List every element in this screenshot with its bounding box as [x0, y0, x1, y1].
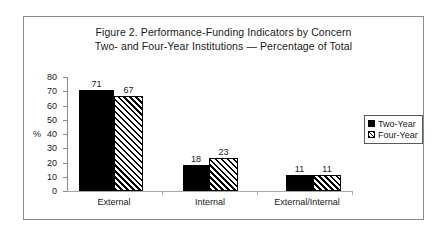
y-tick-60: 60: [63, 106, 67, 107]
x-separator-2: [257, 191, 258, 195]
chart-title-line-1: Figure 2. Performance-Funding Indicators…: [24, 25, 423, 39]
y-tick-30: 30: [63, 148, 67, 149]
y-tick-20: 20: [63, 163, 67, 164]
y-tick-80: 80: [63, 77, 67, 78]
y-tick-label-40: 40: [47, 129, 57, 139]
bar-value-internal-two-year: 18: [191, 154, 201, 164]
y-tick-label-30: 30: [47, 143, 57, 153]
legend-swatch-four-year-icon: [368, 131, 375, 138]
bar-value-external-two-year: 71: [91, 79, 101, 89]
bar-value-external-internal-two-year: 11: [295, 164, 304, 174]
bar-value-external-internal-four-year: 11: [322, 164, 331, 174]
legend: Two-Year Four-Year: [364, 115, 423, 144]
figure-frame: Figure 2. Performance-Funding Indicators…: [23, 16, 424, 220]
y-tick-label-20: 20: [47, 158, 57, 168]
y-tick-label-50: 50: [47, 115, 57, 125]
chart-title: Figure 2. Performance-Funding Indicators…: [24, 25, 423, 53]
bar-external-internal-four-year[interactable]: 11: [313, 175, 341, 191]
legend-item-four-year[interactable]: Four-Year: [368, 129, 418, 140]
legend-item-two-year[interactable]: Two-Year: [368, 118, 418, 129]
y-tick-50: 50: [63, 120, 67, 121]
y-tick-label-80: 80: [47, 72, 57, 82]
x-separator-3: [352, 191, 353, 195]
legend-swatch-two-year-icon: [368, 120, 375, 127]
x-separator-1: [162, 191, 163, 195]
plot-area: % 0 10 20 30 40 50 60 70 80: [67, 77, 353, 191]
y-tick-70: 70: [63, 91, 67, 92]
bar-internal-four-year[interactable]: 23: [209, 158, 238, 191]
bar-value-internal-four-year: 23: [218, 147, 228, 157]
bar-value-external-four-year: 67: [123, 85, 133, 95]
legend-label-four-year: Four-Year: [378, 130, 418, 140]
bar-internal-two-year[interactable]: 18: [183, 165, 209, 191]
y-tick-0: 0: [63, 191, 67, 192]
x-axis-label-external-internal: External/Internal: [274, 197, 340, 207]
y-tick-10: 10: [63, 177, 67, 178]
y-axis-line: [67, 77, 68, 191]
y-tick-label-70: 70: [47, 86, 57, 96]
x-axis-line: [67, 191, 353, 192]
chart-title-line-2: Two- and Four-Year Institutions — Percen…: [24, 39, 423, 53]
bar-external-internal-two-year[interactable]: 11: [286, 175, 313, 191]
y-tick-label-0: 0: [52, 186, 57, 196]
x-axis-label-external: External: [97, 197, 130, 207]
bar-external-two-year[interactable]: 71: [79, 90, 114, 191]
legend-label-two-year: Two-Year: [378, 119, 416, 129]
bar-external-four-year[interactable]: 67: [114, 96, 143, 192]
x-axis-label-internal: Internal: [195, 197, 225, 207]
y-tick-label-60: 60: [47, 101, 57, 111]
y-axis-title: %: [33, 129, 41, 139]
y-tick-label-10: 10: [47, 172, 57, 182]
y-tick-40: 40: [63, 134, 67, 135]
